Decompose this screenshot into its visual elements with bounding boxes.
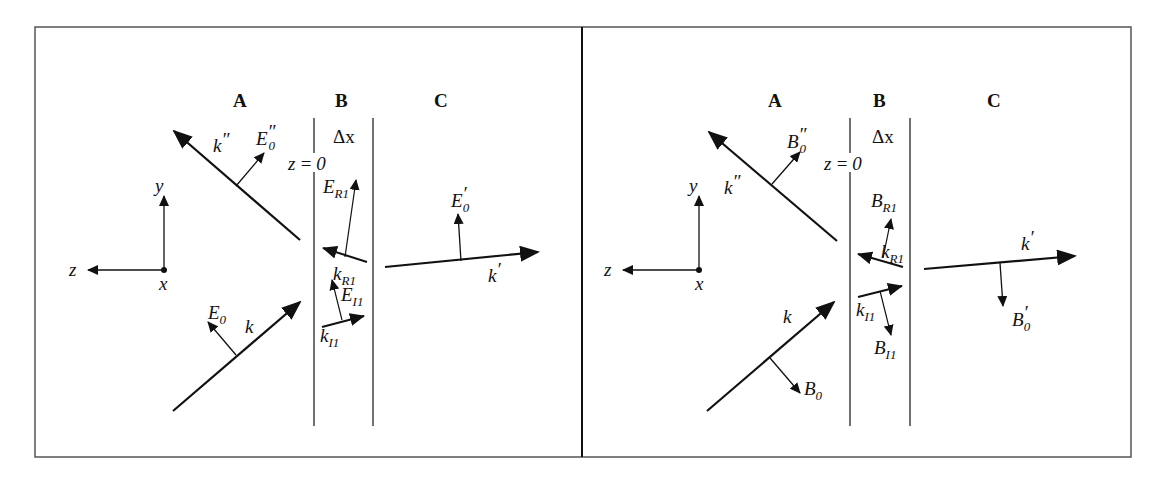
transmitted-e-arrow xyxy=(458,214,461,261)
panel-electric-field: A B C Δx z=0 y z x k″ E″0 ER1 kR1 k′ xyxy=(68,90,538,426)
transmitted-k-label: k′ xyxy=(1021,227,1034,254)
layer-thickness-label: Δx xyxy=(872,126,894,147)
layer-thickness-label: Δx xyxy=(333,126,355,147)
figure-frame xyxy=(35,27,1131,457)
region-label-c: C xyxy=(434,90,448,111)
interface-z0-label: z=0 xyxy=(287,153,326,174)
layer-reflected-e-label: ER1 xyxy=(322,176,349,201)
incident-b-label: B0 xyxy=(804,378,823,403)
incident-k-label: k xyxy=(245,316,254,337)
incident-e-label: E0 xyxy=(207,302,227,327)
axis-label-x: x xyxy=(158,273,168,294)
region-label-b: B xyxy=(335,90,348,111)
region-label-a: A xyxy=(768,90,782,111)
interface-z0-label: z=0 xyxy=(823,153,862,174)
transmitted-e-label: E′0 xyxy=(450,183,470,215)
axis-label-z: z xyxy=(68,259,77,280)
transmitted-k-label: k′ xyxy=(488,259,501,286)
reflected-e-arrow xyxy=(236,153,264,186)
incident-b-arrow xyxy=(770,358,800,393)
layer-incident-k-label: kI1 xyxy=(856,299,875,324)
incident-k-label: k xyxy=(783,306,792,327)
diagram-figure: A B C Δx z=0 y z x k″ E″0 ER1 kR1 k′ xyxy=(0,0,1159,478)
layer-incident-k-label: kI1 xyxy=(320,325,339,350)
layer-incident-b-label: BI1 xyxy=(874,337,896,362)
region-label-c: C xyxy=(987,90,1001,111)
transmitted-wave-arrow xyxy=(924,256,1075,269)
axis-label-y: y xyxy=(687,175,698,196)
layer-incident-e-label: EI1 xyxy=(340,284,363,309)
reflected-k-label: k″ xyxy=(213,129,230,156)
reflected-k-label: k″ xyxy=(724,171,741,198)
transmitted-b-label: B′0 xyxy=(1012,302,1031,334)
panel-magnetic-field: A B C Δx z=0 y z x k″ B″0 BR1 kR1 k′ B′0 xyxy=(603,90,1075,426)
axis-label-x: x xyxy=(694,273,704,294)
coordinate-axes: y z x xyxy=(68,175,168,294)
region-label-a: A xyxy=(233,90,247,111)
layer-reflected-b-label: BR1 xyxy=(871,190,897,215)
reflected-b-label: B″0 xyxy=(787,124,808,156)
layer-incident-b-arrow xyxy=(880,291,891,335)
axis-label-z: z xyxy=(603,259,612,280)
transmitted-b-arrow xyxy=(1000,263,1003,306)
axis-label-y: y xyxy=(153,175,164,196)
reflected-e-label: E″0 xyxy=(255,121,277,153)
incident-wave-arrow xyxy=(173,302,300,411)
region-label-b: B xyxy=(873,90,886,111)
reflected-b-arrow xyxy=(772,152,800,184)
coordinate-axes: y z x xyxy=(603,175,704,294)
